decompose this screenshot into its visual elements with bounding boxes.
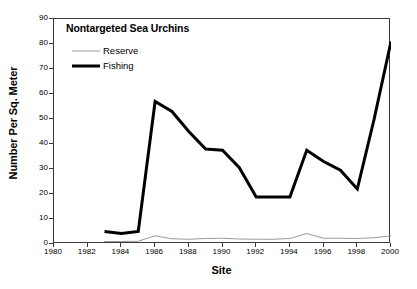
x-tick-mark-1986	[154, 243, 155, 247]
x-axis-label: Site	[53, 264, 390, 276]
x-tick-mark-1996	[323, 243, 324, 247]
x-tick-label-1980: 1980	[44, 248, 62, 256]
x-tick-label-1998: 1998	[347, 248, 365, 256]
x-tick-mark-1994	[289, 243, 290, 247]
x-tick-mark-1990	[222, 243, 223, 247]
x-tick-label-1984: 1984	[111, 248, 129, 256]
x-tick-label-1990: 1990	[213, 248, 231, 256]
x-tick-label-1986: 1986	[145, 248, 163, 256]
x-tick-mark-1998	[356, 243, 357, 247]
x-tick-label-1982: 1982	[78, 248, 96, 256]
x-tick-mark-1982	[87, 243, 88, 247]
chart-figure: Number Per Sq. Meter 0102030405060708090…	[0, 0, 417, 289]
x-tick-label-1988: 1988	[179, 248, 197, 256]
x-tick-label-1992: 1992	[246, 248, 264, 256]
x-tick-label-2000: 2000	[381, 248, 399, 256]
x-tick-mark-1984	[120, 243, 121, 247]
x-tick-mark-1992	[255, 243, 256, 247]
x-tick-mark-2000	[390, 243, 391, 247]
x-tick-label-1994: 1994	[280, 248, 298, 256]
x-axis-ticks: 1980198219841986198819901992199419961998…	[0, 0, 417, 289]
x-tick-mark-1988	[188, 243, 189, 247]
x-tick-mark-1980	[53, 243, 54, 247]
x-tick-label-1996: 1996	[314, 248, 332, 256]
